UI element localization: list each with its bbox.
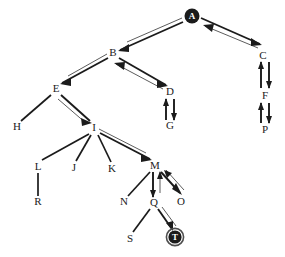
- edge-c-f: [258, 61, 272, 89]
- node-b-label: B: [109, 46, 116, 58]
- node-m-label: M: [150, 159, 160, 171]
- edge-i-l: [42, 134, 89, 160]
- node-e-label: E: [53, 82, 60, 94]
- edge-e-i: [58, 95, 92, 126]
- edge-m-o: [161, 170, 184, 195]
- node-d[interactable]: D: [166, 85, 174, 97]
- node-f[interactable]: F: [262, 89, 268, 101]
- node-k[interactable]: K: [108, 162, 116, 174]
- node-r-label: R: [34, 195, 42, 207]
- edge-b-d: [114, 58, 168, 89]
- edge-m-q: [150, 171, 163, 198]
- node-t-label: T: [172, 232, 178, 242]
- edge-q-t: [158, 207, 176, 231]
- node-g[interactable]: G: [166, 119, 174, 131]
- node-l[interactable]: L: [35, 160, 42, 172]
- node-k-label: K: [108, 162, 116, 174]
- node-m[interactable]: M: [150, 159, 160, 171]
- edge-layer: [21, 18, 272, 232]
- node-q-label: Q: [150, 196, 158, 208]
- node-o-label: O: [177, 195, 185, 207]
- node-n-label: N: [120, 195, 128, 207]
- node-i[interactable]: I: [92, 121, 96, 133]
- edge-i-j: [76, 135, 91, 161]
- edge-i-k: [98, 135, 111, 162]
- node-d-label: D: [166, 85, 174, 97]
- edge-b-e: [60, 54, 108, 86]
- node-q[interactable]: Q: [150, 196, 158, 208]
- node-j[interactable]: J: [72, 161, 77, 173]
- edge-a-b: [118, 18, 183, 52]
- node-n[interactable]: N: [120, 195, 128, 207]
- graph-diagram: A B C D E F G H: [0, 0, 285, 257]
- edge-i-m: [99, 129, 152, 162]
- node-j-label: J: [72, 161, 77, 173]
- edge-q-s: [133, 209, 150, 232]
- node-a[interactable]: A: [185, 9, 200, 24]
- node-i-label: I: [92, 121, 96, 133]
- edge-a-c: [201, 18, 262, 48]
- node-h[interactable]: H: [13, 120, 21, 132]
- node-layer: A B C D E F G H: [13, 9, 268, 246]
- graph-canvas: A B C D E F G H: [0, 0, 285, 257]
- node-e[interactable]: E: [53, 82, 60, 94]
- edge-m-n: [128, 172, 150, 196]
- node-a-label: A: [189, 11, 196, 21]
- node-s-label: S: [127, 232, 133, 244]
- edge-e-h: [21, 95, 51, 121]
- node-r[interactable]: R: [34, 195, 42, 207]
- node-o[interactable]: O: [177, 195, 185, 207]
- node-t[interactable]: T: [166, 228, 183, 245]
- node-p[interactable]: P: [262, 123, 268, 135]
- node-b[interactable]: B: [109, 46, 116, 58]
- node-h-label: H: [13, 120, 21, 132]
- node-c-label: C: [259, 49, 266, 61]
- node-p-label: P: [262, 123, 268, 135]
- node-s[interactable]: S: [127, 232, 133, 244]
- node-l-label: L: [35, 160, 42, 172]
- node-c[interactable]: C: [259, 49, 266, 61]
- node-g-label: G: [166, 119, 174, 131]
- node-f-label: F: [262, 89, 268, 101]
- edge-f-p: [258, 102, 272, 124]
